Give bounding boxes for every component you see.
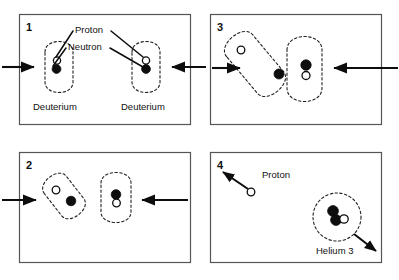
- panel-3-frame: [211, 15, 382, 125]
- panel-1-number: 1: [26, 21, 32, 33]
- panel-2-number: 2: [26, 159, 32, 171]
- panel-3-right-proton: [302, 72, 310, 80]
- panel-4: 4 Proton Helium 3: [211, 153, 382, 263]
- fusion-diagram: 1 Proton Neutron Deuterium Deuterium 2: [0, 0, 399, 280]
- panel-3-left-neutron: [274, 69, 284, 79]
- panel-3-number: 3: [217, 21, 223, 33]
- panel-2-right-neutron: [111, 190, 121, 200]
- panel-1-proton-label: Proton: [75, 24, 103, 35]
- panel-4-free-proton: [247, 188, 255, 196]
- panel-4-proton-label: Proton: [262, 169, 290, 180]
- panel-4-number: 4: [217, 159, 224, 171]
- panel-1-left-caption: Deuterium: [33, 101, 77, 112]
- panel-1: 1 Proton Neutron Deuterium Deuterium: [2, 15, 206, 125]
- panel-1-right-caption: Deuterium: [121, 101, 165, 112]
- panel-2-right-proton: [113, 199, 121, 207]
- panel-4-helium-label: Helium 3: [316, 245, 354, 256]
- panel-2: 2: [2, 153, 191, 263]
- panel-1-neutron-label: Neutron: [68, 41, 102, 52]
- panel-2-frame: [20, 153, 191, 263]
- panel-2-left-proton: [52, 186, 60, 194]
- panel-1-right-neutron: [142, 65, 151, 74]
- panel-1-right-proton: [142, 57, 149, 64]
- panel-4-helium-proton-2: [340, 215, 348, 223]
- panel-2-left-neutron: [66, 196, 76, 206]
- panel-3: 3: [211, 15, 399, 125]
- panel-3-right-neutron: [301, 60, 311, 70]
- panel-4-frame: [211, 153, 382, 263]
- panel-3-left-proton: [237, 46, 245, 54]
